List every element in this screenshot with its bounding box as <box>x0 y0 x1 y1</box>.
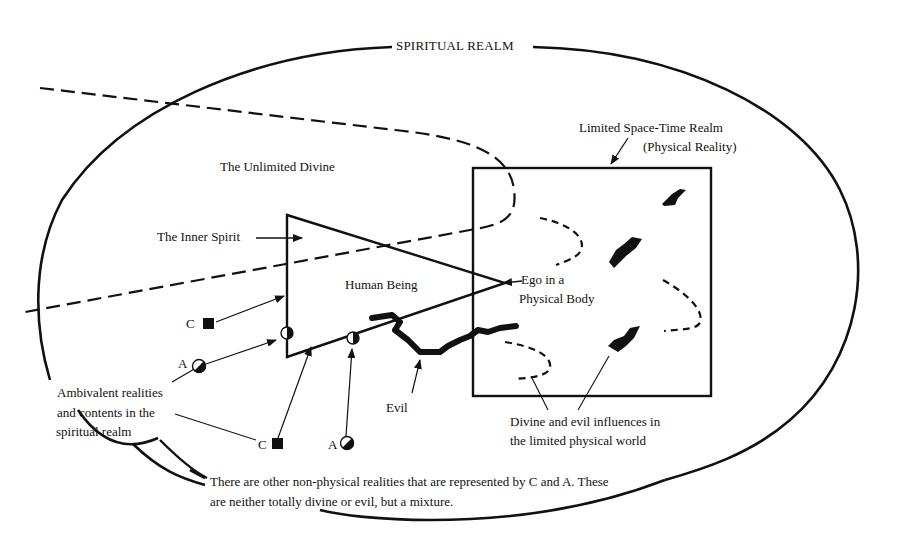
influence-pointer-1 <box>532 378 548 410</box>
marker-a-middle-letter: A <box>178 356 187 372</box>
ambivalent-label-line2: and contents in the <box>57 405 155 421</box>
inner-spirit-label: The Inner Spirit <box>157 229 240 245</box>
influence-pointer-2 <box>578 356 609 410</box>
evil-blob-1 <box>662 189 686 206</box>
influences-label-line1: Divine and evil influences in <box>510 414 660 430</box>
ambivalent-label-line3: spiritual realm <box>56 424 131 440</box>
evil-blob-2 <box>609 237 642 268</box>
evil-label: Evil <box>386 400 408 416</box>
c-upper-arrow <box>216 296 284 322</box>
spiritual-realm-diagram: SPIRITUAL REALM The Unlimited Divine Lim… <box>0 0 897 553</box>
half-circle-on-triangle-1 <box>281 327 293 339</box>
evil-blob-3 <box>608 326 640 352</box>
marker-c-bottom-square <box>272 438 283 449</box>
spiritual-realm-ellipse <box>38 47 858 520</box>
space-time-arrow <box>611 138 628 164</box>
spiritual-realm-title: SPIRITUAL REALM <box>396 38 514 54</box>
footnote-line2: are neither totally divine or evil, but … <box>210 494 453 510</box>
unlimited-divine-label: The Unlimited Divine <box>220 159 335 175</box>
footnote-pointer <box>160 440 207 478</box>
influences-label-line2: the limited physical world <box>510 433 646 449</box>
c-bottom-arrow <box>278 347 311 438</box>
marker-a-bottom-circle <box>341 437 355 451</box>
marker-c-upper-square <box>203 318 214 329</box>
ambivalent-pointer-c <box>175 414 256 440</box>
dashed-divine-boundary <box>20 88 515 313</box>
physical-reality-label: (Physical Reality) <box>643 139 737 155</box>
a-middle-arrow <box>206 340 276 364</box>
footnote-line1: There are other non-physical realities t… <box>210 474 609 490</box>
human-being-label: Human Being <box>345 277 418 293</box>
ambivalent-label-line1: Ambivalent realities <box>57 385 163 401</box>
marker-a-bottom-letter: A <box>328 437 337 453</box>
ego-label-line2: Physical Body <box>519 291 594 307</box>
space-time-realm-label: Limited Space-Time Realm <box>579 120 723 136</box>
marker-c-bottom-letter: C <box>258 437 267 453</box>
marker-c-upper-letter: C <box>186 316 195 332</box>
ego-arrow <box>503 281 522 283</box>
diagram-canvas <box>0 0 897 553</box>
ego-label-line1: Ego in a <box>521 272 564 288</box>
a-bottom-arrow <box>346 349 352 436</box>
evil-arrow <box>412 360 420 393</box>
half-circle-on-triangle-2 <box>347 332 359 344</box>
marker-a-middle-circle <box>193 360 207 374</box>
